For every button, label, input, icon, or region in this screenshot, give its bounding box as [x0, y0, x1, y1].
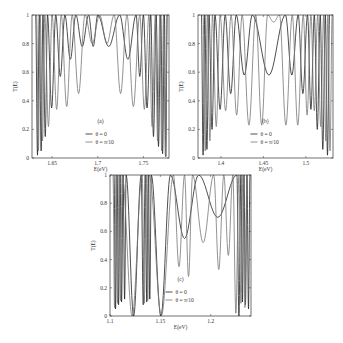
y-tick-label: 1	[26, 12, 29, 18]
y-tick-label: 1	[192, 12, 195, 18]
legend-entry: θ = π/10	[261, 139, 280, 145]
x-tick-label: 1.5	[302, 160, 309, 166]
legend-entry: θ = π/10	[96, 139, 115, 145]
panel-label: (a)	[97, 118, 103, 125]
y-axis-label: T(E)	[90, 240, 97, 251]
legend-entry: θ = π/10	[176, 297, 195, 303]
y-tick-label: 0.2	[22, 126, 29, 132]
legend-entry: θ = 0	[96, 131, 107, 137]
y-tick-label: 0.8	[22, 41, 29, 47]
panel-b: 00.20.40.60.811.41.451.5E(eV)T(E)(b)θ = …	[178, 12, 333, 173]
legend-entry: θ = 0	[176, 289, 187, 295]
x-tick-label: 1.75	[139, 160, 149, 166]
chart-figure: 00.20.40.60.811.651.71.75E(eV)T(E)(a)θ =…	[0, 0, 343, 343]
x-tick-label: 1.15	[156, 318, 166, 324]
y-tick-label: 0.6	[22, 69, 29, 75]
y-tick-label: 1	[104, 172, 107, 178]
y-tick-label: 0.8	[188, 41, 195, 47]
y-tick-label: 0.2	[188, 126, 195, 132]
y-tick-label: 0	[192, 155, 195, 161]
y-tick-label: 0.6	[100, 228, 107, 234]
x-axis-label: E(eV)	[259, 166, 273, 173]
y-tick-label: 0.6	[188, 69, 195, 75]
x-tick-label: 1.2	[207, 318, 214, 324]
x-tick-label: 1.4	[217, 160, 224, 166]
y-tick-label: 0.8	[100, 200, 107, 206]
x-axis-label: E(eV)	[174, 324, 188, 331]
y-tick-label: 0.4	[188, 98, 195, 104]
y-axis-label: T(E)	[12, 81, 19, 92]
panel-c: 00.20.40.60.811.11.151.2E(eV)T(E)(c)θ = …	[90, 172, 251, 331]
y-tick-label: 0	[26, 155, 29, 161]
panel-label: (b)	[262, 118, 269, 125]
legend-entry: θ = 0	[261, 131, 272, 137]
y-tick-label: 0.4	[22, 98, 29, 104]
panel-label: (c)	[177, 276, 183, 283]
y-tick-label: 0.4	[100, 257, 107, 263]
x-tick-label: 1.1	[107, 318, 114, 324]
y-axis-label: T(E)	[178, 81, 185, 92]
x-tick-label: 1.65	[47, 160, 57, 166]
y-tick-label: 0.2	[100, 285, 107, 291]
panel-a: 00.20.40.60.811.651.71.75E(eV)T(E)(a)θ =…	[12, 12, 169, 173]
